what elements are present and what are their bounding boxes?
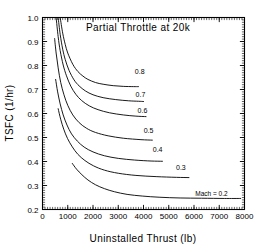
y-axis-title: TSFC (1/hr) (4, 84, 15, 141)
curve-label-0.6: 0.6 (138, 107, 148, 114)
y-tick-label: 0.9 (27, 38, 39, 47)
y-tick-label: 0.8 (27, 62, 39, 71)
y-tick-label: 0.3 (27, 182, 39, 191)
y-tick-label: 0.4 (27, 158, 39, 167)
y-tick-label: 0.7 (27, 86, 39, 95)
x-tick-label: 0 (40, 212, 45, 221)
x-tick-label: 1000 (59, 212, 77, 221)
curve-label-0.4: 0.4 (153, 146, 163, 153)
x-axis-title: Uninstalled Thrust (lb) (90, 233, 197, 244)
chart-title: Partial Throttle at 20k (86, 22, 191, 33)
chart-figure: 010002000300040005000600070008000 0.20.3… (0, 0, 261, 248)
y-tick-label: 1.0 (27, 14, 39, 23)
curve-mach-0.4 (56, 79, 163, 161)
x-tick-label: 4000 (135, 212, 153, 221)
curve-series-group (55, 18, 241, 199)
curve-label-0.3: 0.3 (176, 164, 186, 171)
x-axis-tick-labels: 010002000300040005000600070008000 (40, 212, 254, 221)
curve-mach-0.3 (58, 109, 189, 178)
x-tick-label: 8000 (236, 212, 254, 221)
y-axis-tick-labels: 0.20.30.40.50.60.70.80.91.0 (27, 14, 39, 215)
y-tick-label: 0.2 (27, 206, 39, 215)
curve-mach-0.5 (55, 39, 153, 141)
tsfc-vs-thrust-chart: 010002000300040005000600070008000 0.20.3… (0, 0, 261, 248)
curve-label-0.2: Mach = 0.2 (195, 190, 228, 197)
y-tick-label: 0.6 (27, 110, 39, 119)
curve-label-0.5: 0.5 (144, 127, 154, 134)
x-tick-label: 7000 (210, 212, 228, 221)
x-tick-label: 2000 (84, 212, 102, 221)
x-tick-label: 3000 (109, 212, 127, 221)
curve-label-0.7: 0.7 (136, 91, 146, 98)
y-tick-label: 0.5 (27, 134, 39, 143)
x-tick-label: 6000 (185, 212, 203, 221)
x-tick-label: 5000 (160, 212, 178, 221)
curve-label-0.8: 0.8 (135, 68, 145, 75)
